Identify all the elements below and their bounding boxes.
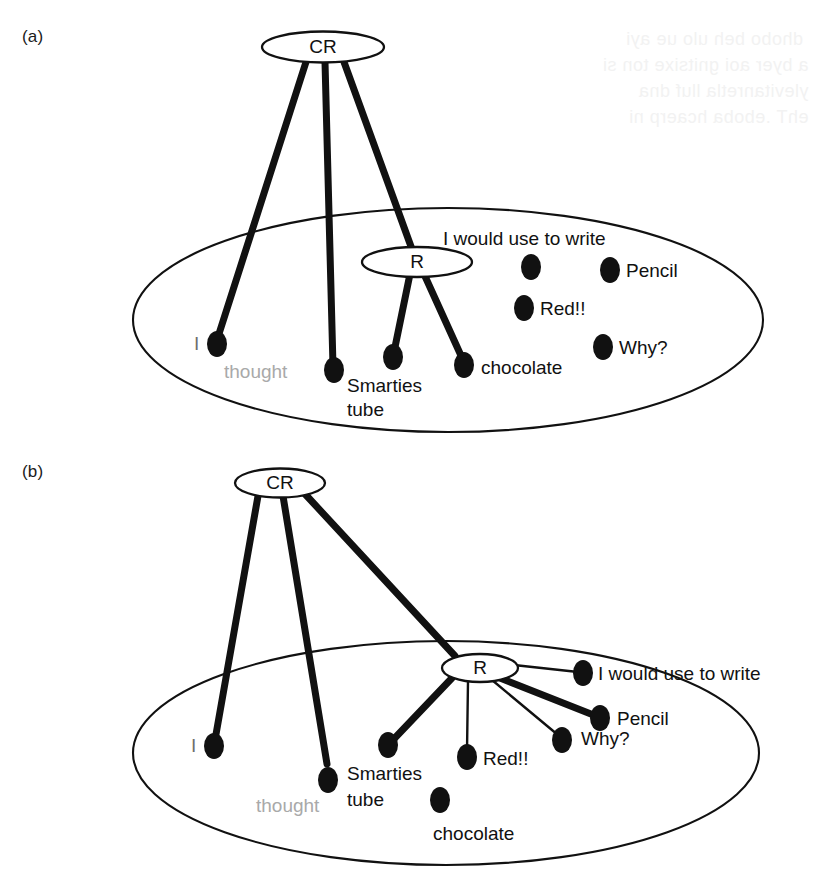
panel-a-dot-why[interactable]: [593, 334, 613, 360]
panel-a-dot-red[interactable]: [514, 295, 534, 321]
panel-b-item-smarties-label-line2: tube: [347, 789, 384, 810]
panel-b-item-why-label: Why?: [581, 728, 630, 749]
panel-b-dot-smarties[interactable]: [378, 732, 398, 758]
panel-a-link-cr-to-r: [344, 62, 413, 252]
panel-b-dot-write[interactable]: [573, 660, 593, 686]
panel-b-item-pencil-label: Pencil: [617, 708, 669, 729]
panel-b-link-cr-to-r: [305, 494, 455, 656]
panel-b-item-write-label: I would use to write: [598, 663, 761, 684]
panel-b-dot-chocolate[interactable]: [430, 787, 450, 813]
panel-a-dot-thought[interactable]: [324, 357, 344, 383]
panel-b-node-cr-label: CR: [266, 472, 293, 493]
panel-a-dot-smarties[interactable]: [383, 344, 403, 370]
panel-a-dot-pencil[interactable]: [600, 257, 620, 283]
panel-a-dot-chocolate[interactable]: [454, 352, 474, 378]
page-bleed-through: dhobo beh ulo ue ayi a byer aoi gnitsixe…: [534, 26, 814, 130]
panel-a-item-smarties-label-line2: tube: [347, 399, 384, 420]
panel-a-dot-i[interactable]: [207, 331, 227, 357]
panel-a-link-cr-to-i: [217, 62, 306, 340]
panel-b-item-red-label: Red!!: [483, 748, 528, 769]
panel-a-item-chocolate-label: chocolate: [481, 357, 562, 378]
panel-b-link-cr-to-thought: [283, 496, 327, 764]
panel-a-link-r-to-chocolate: [424, 274, 463, 360]
panel-b-label: (b): [22, 462, 43, 482]
panel-a-link-cr-to-thought: [325, 62, 333, 366]
panel-a-node-r-label: R: [410, 251, 424, 272]
panel-b-item-i-label: I: [191, 735, 196, 756]
panel-b-dot-thought[interactable]: [318, 767, 338, 793]
panel-a-node-cr-label: CR: [309, 36, 336, 57]
panel-b-link-r-to-smarties: [391, 678, 452, 742]
panel-a-item-red-label: Red!!: [540, 298, 585, 319]
panel-a-item-why-label: Why?: [619, 337, 668, 358]
panel-b-node-r-label: R: [473, 657, 487, 678]
panel-b-link-cr-to-i: [215, 496, 258, 740]
panel-b-item-chocolate-label: chocolate: [433, 823, 514, 844]
panel-b-dot-i[interactable]: [204, 733, 224, 759]
panel-a-link-r-to-smarties: [394, 274, 410, 352]
panel-a-item-pencil-label: Pencil: [626, 260, 678, 281]
panel-b-link-r-to-red: [467, 681, 468, 751]
panel-a-dot-write[interactable]: [521, 254, 541, 280]
panel-a-item-i-label: I: [194, 333, 199, 354]
figure-canvas: CR R: [0, 0, 822, 887]
panel-b-item-thought-label: thought: [256, 795, 319, 816]
diagram-svg: CR R: [0, 0, 822, 887]
panel-a-item-write-label: I would use to write: [443, 228, 606, 249]
panel-b-item-smarties-label-line1: Smarties: [347, 763, 422, 784]
panel-b-link-r-to-write: [514, 665, 578, 672]
panel-a-item-smarties-label-line1: Smarties: [347, 375, 422, 396]
panel-a-item-thought-label: thought: [224, 361, 287, 382]
panel-b-dot-why[interactable]: [552, 727, 572, 753]
panel-b-dot-red[interactable]: [457, 744, 477, 770]
panel-a-label: (a): [22, 27, 43, 47]
